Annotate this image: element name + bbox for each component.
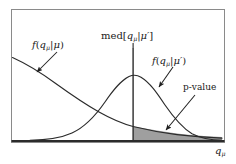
label-p-value: p-value [183,82,216,92]
label-f-q-mu-given-mu-prime: f(qμ|μ′) [152,55,186,66]
label-f-mu-sub: μ [46,44,50,51]
label-f-q-mu-given-mu: f(qμ|μ) [32,39,64,50]
label-med-sub: μ [133,35,137,42]
label-x-axis: qμ [215,145,225,156]
label-med-close: ] [149,30,153,41]
figure-container: f(qμ|μ) med[qμ|μ′] f(qμ|μ′) p-value qμ [0,0,236,164]
label-xaxis-sub: μ [221,150,225,157]
label-med-fn: med [101,30,123,41]
label-median: med[qμ|μ′] [101,30,153,41]
label-f-muprime-sub: μ [166,60,170,67]
